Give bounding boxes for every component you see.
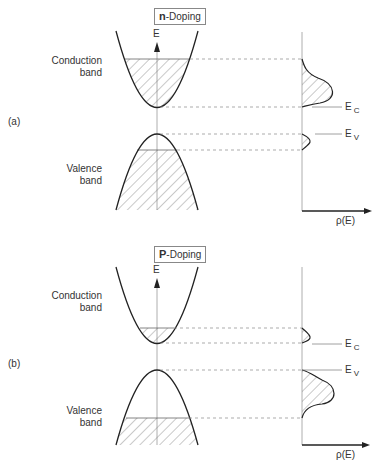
dos-axis-label-b: ρ(E) bbox=[336, 449, 355, 460]
panel-b-title: P-Doping bbox=[154, 246, 206, 263]
dos-axis-arrow-icon bbox=[362, 442, 370, 448]
title-rest: -Doping bbox=[166, 11, 201, 22]
panel-tag-a: (a) bbox=[8, 116, 20, 127]
valence-label-line1: Valence bbox=[67, 163, 102, 175]
ec-sub: C bbox=[354, 106, 360, 115]
valence-band-label-b: Valenceband bbox=[67, 405, 102, 429]
ev-label-a: EV bbox=[345, 128, 359, 139]
conduction-label-line2: band bbox=[51, 302, 102, 314]
energy-axis-arrow-icon bbox=[154, 42, 160, 52]
ev-e: E bbox=[345, 364, 352, 375]
ec-label-a: EC bbox=[345, 101, 359, 112]
ev-e: E bbox=[345, 128, 352, 139]
valence-filled-states-a bbox=[110, 150, 205, 210]
dashed-guides-b bbox=[160, 328, 302, 418]
energy-axis-label-b: E bbox=[153, 264, 160, 275]
valence-label-line1: Valence bbox=[67, 405, 102, 417]
conduction-band-label-b: Conductionband bbox=[51, 290, 102, 314]
conduction-filled-states-b bbox=[110, 328, 205, 348]
conduction-band-label-a: Conductionband bbox=[51, 55, 102, 79]
panel-a-title: n-Doping bbox=[154, 8, 206, 25]
ev-label-b: EV bbox=[345, 364, 359, 375]
energy-axis-arrow-icon bbox=[154, 278, 160, 288]
ev-sub: V bbox=[354, 133, 359, 142]
panel-a bbox=[110, 31, 372, 214]
valence-label-line2: band bbox=[67, 417, 102, 429]
dos-axis-label-a: ρ(E) bbox=[336, 215, 355, 226]
conduction-label-line1: Conduction bbox=[51, 55, 102, 67]
ec-e: E bbox=[345, 338, 352, 349]
ec-sub: C bbox=[354, 343, 360, 352]
conduction-label-line1: Conduction bbox=[51, 290, 102, 302]
ec-e: E bbox=[345, 101, 352, 112]
title-bold: n bbox=[159, 10, 166, 22]
conduction-label-line2: band bbox=[51, 67, 102, 79]
energy-axis-label-a: E bbox=[153, 28, 160, 39]
valence-label-line2: band bbox=[67, 175, 102, 187]
ec-label-b: EC bbox=[345, 338, 359, 349]
ev-sub: V bbox=[354, 369, 359, 378]
title-rest: -Doping bbox=[166, 249, 201, 260]
panel-tag-b: (b) bbox=[8, 358, 20, 369]
panel-b bbox=[110, 267, 370, 448]
dos-axis-arrow-icon bbox=[364, 208, 372, 214]
conduction-filled-states-a bbox=[110, 59, 205, 109]
valence-band-label-a: Valenceband bbox=[67, 163, 102, 187]
